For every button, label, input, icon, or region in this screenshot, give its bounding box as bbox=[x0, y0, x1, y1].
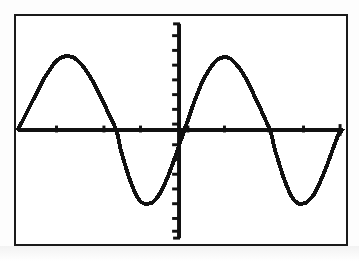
sine-graph-plot[interactable] bbox=[16, 16, 346, 244]
page-root bbox=[0, 0, 359, 261]
calculator-screen-frame[interactable] bbox=[14, 14, 348, 246]
paper-background-band bbox=[0, 246, 359, 261]
